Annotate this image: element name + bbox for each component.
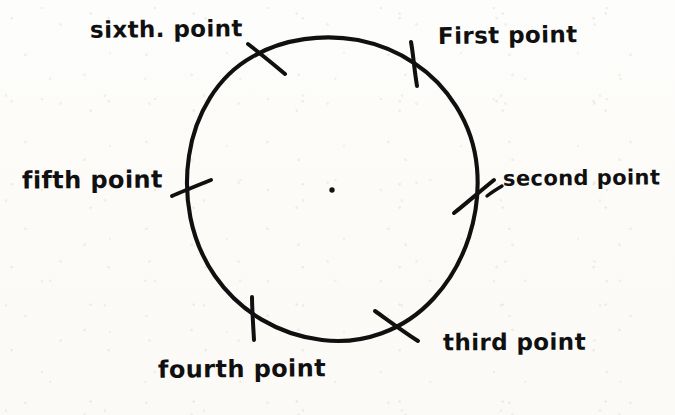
tick-fourth-point [252,297,254,340]
label-sixth-point: sixth. point [90,17,243,42]
handwritten-diagram-canvas: sixth. point First point fifth point sec… [0,0,675,415]
center-dot [329,187,334,192]
label-first-point: First point [438,23,578,48]
label-second-point: second point [503,167,661,189]
tick-fifth-point [172,180,211,196]
label-fifth-point: fifth point [22,168,163,193]
label-fourth-point: fourth point [158,356,326,381]
leader-second-point [487,186,502,196]
label-third-point: third point [443,331,586,355]
